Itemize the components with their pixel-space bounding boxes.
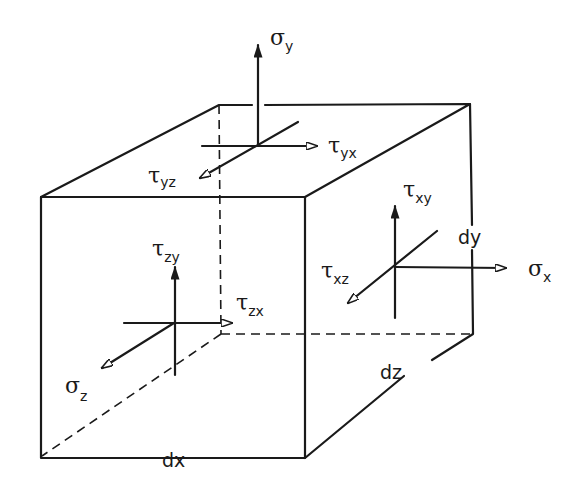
label-tau-xz: τxz bbox=[321, 258, 349, 287]
label-sigma-x: σx bbox=[528, 256, 551, 285]
label-tau-yx: τyx bbox=[328, 133, 357, 161]
label-sigma-y: σy bbox=[270, 25, 293, 54]
cube-edges bbox=[41, 104, 473, 458]
label-dx: dx bbox=[162, 449, 185, 471]
diagram-canvas: σy τyx τyz τxy τxz σx τzy τzx σz dx dz d… bbox=[0, 0, 588, 495]
stress-element-diagram: σy τyx τyz τxy τxz σx τzy τzx σz dx dz d… bbox=[0, 0, 588, 495]
front-face-stresses: τzy τzx σz bbox=[65, 236, 264, 404]
top-face-stresses: σy τyx τyz bbox=[148, 25, 357, 190]
label-dy: dy bbox=[458, 226, 481, 248]
label-tau-yz: τyz bbox=[148, 163, 176, 190]
right-face-stresses: τxy τxz σx bbox=[321, 177, 551, 318]
hidden-edges bbox=[42, 105, 473, 456]
label-dz: dz bbox=[380, 361, 402, 383]
label-tau-xy: τxy bbox=[403, 177, 432, 206]
label-tau-zx: τzx bbox=[236, 290, 264, 319]
label-tau-zy: τzy bbox=[152, 236, 180, 265]
label-sigma-z: σz bbox=[65, 373, 87, 404]
